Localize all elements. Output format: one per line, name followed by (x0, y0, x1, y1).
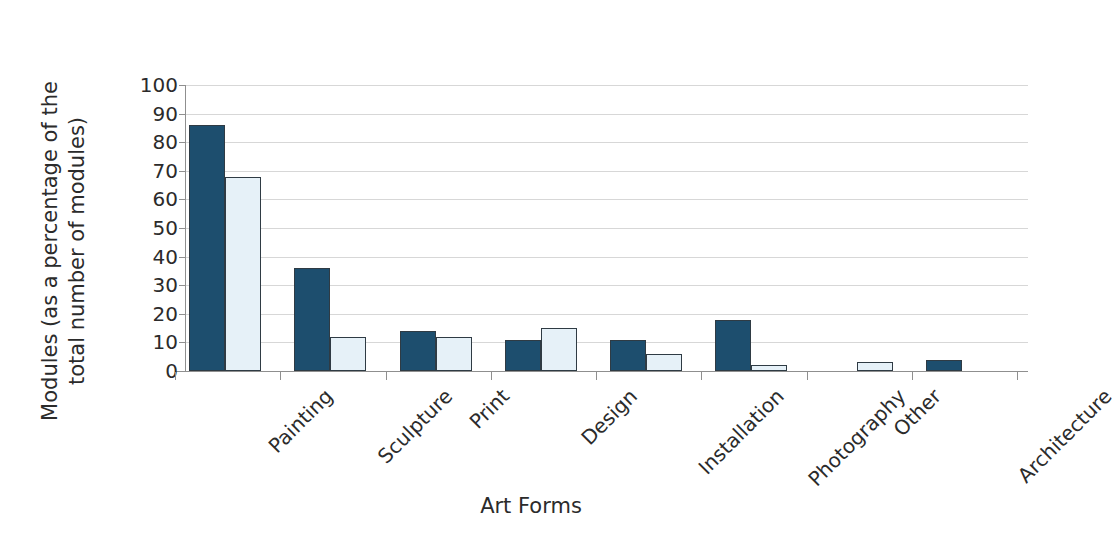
bar-group (821, 85, 893, 371)
bar-painting-series-2[interactable] (225, 177, 261, 371)
x-axis-line (175, 371, 1028, 372)
x-tick-mark (912, 372, 913, 380)
x-tick-label-print: Print (464, 384, 514, 434)
y-tick-label: 20 (120, 302, 178, 326)
y-tick-mark (179, 85, 186, 86)
x-tick-mark (280, 372, 281, 380)
bar-other-series-2[interactable] (857, 362, 893, 371)
x-tick-mark (175, 372, 176, 380)
y-tick-mark (179, 257, 186, 258)
x-tick-label-installation: Installation (693, 384, 788, 479)
y-tick-label: 100 (120, 73, 178, 97)
bar-sculpture-series-1[interactable] (294, 268, 330, 371)
bar-group (294, 85, 366, 371)
bar-group (610, 85, 682, 371)
y-tick-label: 60 (120, 187, 178, 211)
bar-group (505, 85, 577, 371)
bar-group (926, 85, 998, 371)
y-tick-mark (179, 199, 186, 200)
bars-layer (186, 85, 1028, 371)
y-axis-title-line-2: total number of modules) (64, 117, 91, 385)
y-tick-mark (179, 285, 186, 286)
y-tick-label: 70 (120, 159, 178, 183)
bar-painting-series-1[interactable] (189, 125, 225, 371)
x-tick-label-sculpture: Sculpture (373, 384, 457, 468)
y-tick-mark (179, 342, 186, 343)
y-tick-mark (179, 142, 186, 143)
x-tick-mark (1017, 372, 1018, 380)
x-tick-label-photography: Photography (804, 384, 911, 491)
bar-sculpture-series-2[interactable] (330, 337, 366, 371)
bar-group (400, 85, 472, 371)
x-tick-mark (596, 372, 597, 380)
bar-installation-series-2[interactable] (646, 354, 682, 371)
bar-print-series-1[interactable] (400, 331, 436, 371)
x-tick-mark (807, 372, 808, 380)
y-tick-mark (179, 114, 186, 115)
x-tick-mark (491, 372, 492, 380)
bar-group (189, 85, 261, 371)
bar-design-series-2[interactable] (541, 328, 577, 371)
x-tick-label-painting: Painting (264, 384, 338, 458)
y-tick-mark (179, 171, 186, 172)
y-tick-label: 10 (120, 330, 178, 354)
y-axis-title: Modules (as a percentage of the total nu… (31, 61, 97, 441)
x-tick-label-design: Design (576, 384, 642, 450)
bar-photography-series-2[interactable] (751, 365, 787, 371)
bar-installation-series-1[interactable] (610, 340, 646, 371)
bar-architecture-series-1[interactable] (926, 360, 962, 371)
y-tick-label: 90 (120, 102, 178, 126)
bar-print-series-2[interactable] (436, 337, 472, 371)
x-axis-title: Art Forms (0, 494, 1062, 518)
y-tick-label: 0 (120, 359, 178, 383)
y-tick-label: 50 (120, 216, 178, 240)
bar-group (715, 85, 787, 371)
y-tick-mark (179, 314, 186, 315)
bar-design-series-1[interactable] (505, 340, 541, 371)
y-tick-mark (179, 371, 186, 372)
y-tick-label: 30 (120, 273, 178, 297)
x-tick-mark (386, 372, 387, 380)
x-tick-mark (701, 372, 702, 380)
y-tick-label: 40 (120, 245, 178, 269)
x-tick-label-architecture: Architecture (1013, 384, 1116, 488)
y-tick-label: 80 (120, 130, 178, 154)
bar-photography-series-1[interactable] (715, 320, 751, 371)
y-tick-mark (179, 228, 186, 229)
y-axis-title-line-1: Modules (as a percentage of the (37, 81, 64, 421)
